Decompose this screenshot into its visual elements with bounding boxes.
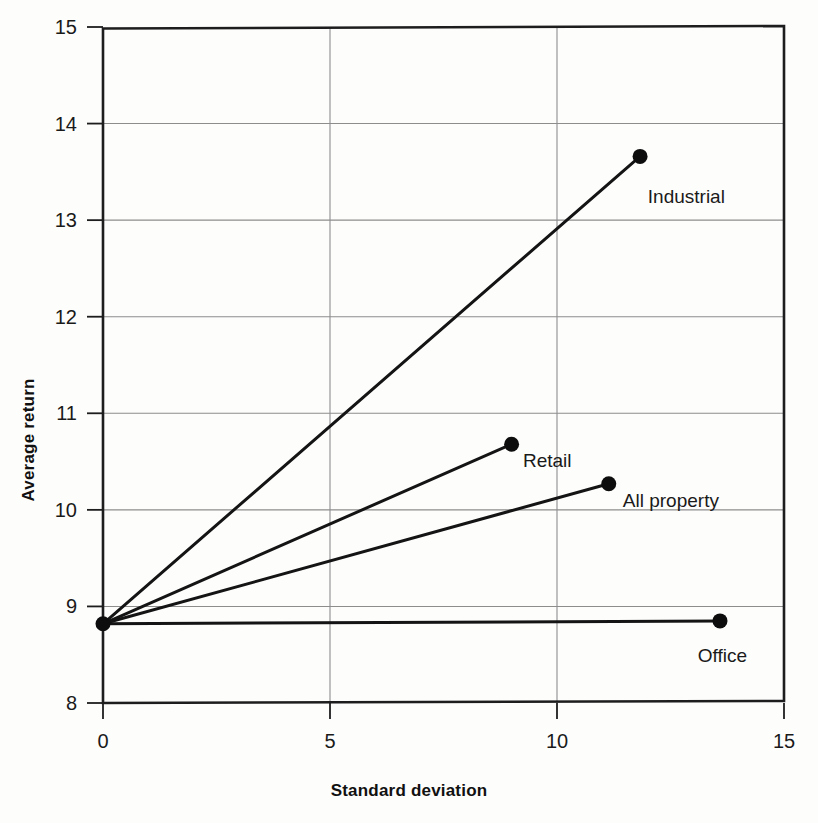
- data-point-origin: [96, 616, 111, 631]
- y-tick-label: 11: [56, 402, 77, 424]
- data-point-retail: [504, 437, 519, 452]
- y-tick-label: 15: [55, 16, 77, 38]
- point-label-industrial: Industrial: [648, 186, 725, 207]
- point-label-office: Office: [698, 645, 747, 666]
- x-axis-title: Standard deviation: [331, 781, 488, 800]
- data-point-all-property: [601, 476, 616, 491]
- x-tick-label: 15: [773, 730, 795, 752]
- y-tick-label: 10: [55, 499, 77, 521]
- y-tick-label: 12: [55, 306, 77, 328]
- y-tick-label: 14: [55, 113, 77, 135]
- point-label-all-property: All property: [623, 490, 720, 511]
- data-point-office: [712, 613, 727, 628]
- point-label-retail: Retail: [523, 450, 572, 471]
- y-axis-title: Average return: [19, 378, 38, 501]
- scatter-chart: 051015 89101112131415 IndustrialRetailAl…: [0, 0, 818, 823]
- x-tick-label: 0: [97, 730, 108, 752]
- x-tick-label: 5: [324, 730, 335, 752]
- y-tick-label: 9: [66, 595, 77, 617]
- y-tick-label: 8: [66, 692, 77, 714]
- y-tick-label: 13: [55, 209, 77, 231]
- data-point-industrial: [633, 149, 648, 164]
- chart-figure: 051015 89101112131415 IndustrialRetailAl…: [0, 0, 818, 823]
- x-tick-label: 10: [546, 730, 568, 752]
